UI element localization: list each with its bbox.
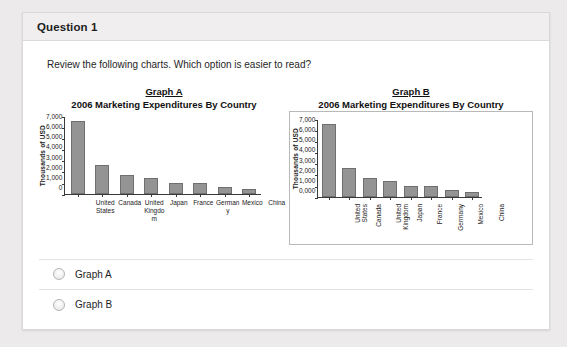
bar-united-kingdom [120, 175, 134, 193]
x-tick-label: Germany [216, 199, 241, 223]
bar-canada [95, 165, 109, 194]
y-tick-label: 6,000 [299, 127, 315, 134]
y-tick-label: 0,000 [299, 188, 315, 195]
bar-slot [400, 120, 421, 197]
radio-button-graph-b[interactable] [53, 299, 65, 311]
card-header: Question 1 [23, 13, 549, 41]
option-label: Graph A [75, 269, 112, 280]
bar-canada [342, 168, 356, 197]
chart-b-plot: Thousands of USD 7,0006,0005,0004,0003,0… [292, 120, 528, 198]
y-tick-mark [62, 195, 65, 196]
x-tick-label: Japan [167, 199, 192, 223]
y-tick-label: 2,000 [299, 168, 315, 175]
y-tick-label: 0 [46, 185, 62, 192]
chart-a-name: Graph A [39, 86, 289, 98]
y-tick-label: 5,000 [299, 137, 315, 144]
y-tick-label: 5,000 [46, 134, 62, 141]
bar-united-states [322, 124, 336, 197]
bar-united-kingdom [363, 178, 377, 196]
question-prompt: Review the following charts. Which optio… [47, 59, 533, 70]
bar-slot [380, 120, 401, 197]
bar-slot [359, 120, 380, 197]
y-tick-label: 4,000 [46, 144, 62, 151]
x-tick-label: France [426, 202, 447, 242]
x-tick-label: France [191, 199, 216, 223]
y-tick-label: 3,000 [46, 155, 62, 162]
bar-japan [144, 178, 158, 194]
bar-mexico [218, 187, 232, 194]
chart-b-ylabel: Thousands of USD [292, 128, 299, 189]
chart-graph-b: Graph B 2006 Marketing Expenditures By C… [289, 86, 533, 245]
option-label: Graph B [75, 299, 112, 310]
bar-slot [163, 117, 188, 194]
x-tick-label: United States [93, 199, 118, 223]
bar-france [169, 183, 183, 193]
x-tick-label: Canada [118, 199, 143, 223]
bar-slot [462, 120, 483, 197]
chart-a-bars [65, 117, 261, 195]
chart-a-titles: Graph A 2006 Marketing Expenditures By C… [39, 86, 289, 111]
y-tick-label: 7,000 [46, 114, 62, 121]
question-card: Question 1 Review the following charts. … [22, 12, 550, 330]
bar-united-states [71, 121, 85, 194]
bar-slot [139, 117, 164, 194]
card-body: Review the following charts. Which optio… [23, 41, 549, 320]
answer-options: Graph AGraph B [39, 259, 533, 320]
option-row-graph-a[interactable]: Graph A [39, 260, 533, 290]
x-tick-label: Germany [447, 202, 468, 242]
y-tick-label: 3,000 [299, 158, 315, 165]
x-tick-label: UnitedKingdom [385, 202, 406, 242]
x-tick-label: Mexico [240, 199, 265, 223]
chart-a-ylabel: Thousands of USD [39, 125, 46, 186]
bar-germany [193, 183, 207, 193]
x-tick-label: United Kingdom [142, 199, 167, 223]
x-tick-label: Mexico [467, 202, 488, 242]
bar-slot [65, 117, 90, 194]
charts-container: Graph A 2006 Marketing Expenditures By C… [39, 86, 533, 245]
bar-mexico [445, 190, 459, 197]
y-tick-label: 7,000 [299, 117, 315, 124]
bar-france [404, 186, 418, 196]
chart-b-xlabels: UnitedStatesCanadaUnitedKingdomJapanFran… [344, 202, 508, 242]
x-tick-label: UnitedStates [344, 202, 365, 242]
x-tick-label: China [265, 199, 290, 223]
radio-button-graph-a[interactable] [53, 268, 65, 280]
bar-china [242, 189, 256, 194]
bar-slot [421, 120, 442, 197]
y-tick-label: 1,000 [46, 175, 62, 182]
chart-b-subtitle: 2006 Marketing Expenditures By Country [289, 99, 533, 111]
chart-b-titles: Graph B 2006 Marketing Expenditures By C… [289, 86, 533, 111]
bar-slot [90, 117, 115, 194]
x-tick-label: Canada [365, 202, 386, 242]
bar-slot [114, 117, 139, 194]
y-tick-mark [315, 198, 318, 199]
y-tick-label: 6,000 [46, 124, 62, 131]
chart-b-name: Graph B [289, 86, 533, 98]
x-tick-label: Japan [406, 202, 427, 242]
chart-a-subtitle: 2006 Marketing Expenditures By Country [39, 99, 289, 111]
bar-japan [383, 181, 397, 197]
option-row-graph-b[interactable]: Graph B [39, 290, 533, 320]
chart-a-plot: Thousands of USD 7,0006,0005,0004,0003,0… [39, 117, 289, 195]
y-tick-label: 2,000 [46, 165, 62, 172]
page-title: Question 1 [37, 21, 97, 33]
bar-slot [339, 120, 360, 197]
y-tick-label: 1,000 [299, 178, 315, 185]
bar-slot [318, 120, 339, 197]
y-tick-label: 4,000 [299, 147, 315, 154]
bar-slot [237, 117, 262, 194]
chart-graph-a: Graph A 2006 Marketing Expenditures By C… [39, 86, 289, 245]
bar-slot [188, 117, 213, 194]
bar-slot [441, 120, 462, 197]
chart-b-frame: Thousands of USD 7,0006,0005,0004,0003,0… [289, 111, 533, 245]
chart-b-bars [318, 120, 482, 198]
bar-china [465, 192, 479, 197]
chart-a-xlabels: United StatesCanadaUnited KingdomJapanFr… [93, 199, 289, 223]
bar-germany [424, 186, 438, 196]
bar-slot [212, 117, 237, 194]
x-tick-label: China [488, 202, 509, 242]
